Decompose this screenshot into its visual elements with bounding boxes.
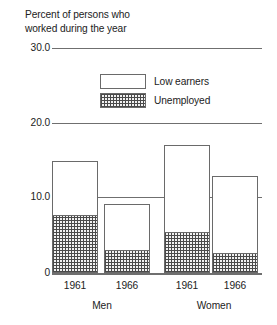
x-axis-tick-men-1961: 1961 (52, 280, 98, 291)
x-axis-tick-women-1961: 1961 (164, 280, 210, 291)
bar-segment-low-earners (53, 162, 97, 218)
bar-women-1966 (212, 176, 258, 273)
bar-men-1961 (52, 161, 98, 274)
bar-segment-low-earners (105, 205, 149, 252)
bar-segment-unemployed (105, 250, 149, 273)
bar-segment-unemployed (165, 232, 209, 272)
x-axis-tick-women-1966: 1966 (212, 280, 258, 291)
x-axis-group-label-women: Women (162, 300, 266, 311)
x-axis-tick-men-1966: 1966 (104, 280, 150, 291)
x-axis-group-label-men: Men (50, 300, 154, 311)
chart-root: Percent of persons who worked during the… (0, 0, 277, 325)
bar-segment-unemployed (53, 215, 97, 272)
bar-women-1961 (164, 145, 210, 273)
bar-men-1966 (104, 204, 150, 273)
bar-segment-unemployed (213, 253, 257, 273)
bar-segment-low-earners (213, 177, 257, 254)
plot-area (0, 0, 277, 325)
bar-segment-low-earners (165, 146, 209, 235)
